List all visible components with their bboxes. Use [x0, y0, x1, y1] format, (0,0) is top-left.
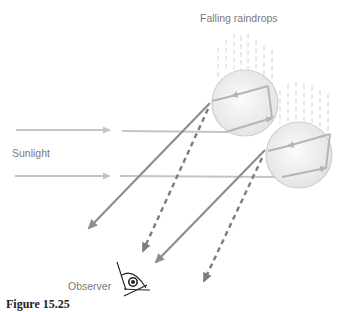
sunlight-ray-2b: [120, 176, 282, 177]
diagram-title: Falling raindrops: [200, 12, 278, 24]
figure-caption: Figure 15.25: [6, 297, 70, 312]
observer-label: Observer: [68, 280, 111, 292]
sunlight-ray-1b: [122, 131, 226, 132]
solid-exit-ray-1: [89, 103, 210, 228]
sunlight-rays: [15, 130, 282, 177]
solid-exit-ray-2: [156, 150, 265, 262]
raindrop-lower: [266, 122, 332, 188]
raindrop-upper: [212, 70, 278, 136]
observer-eye-icon: [117, 262, 150, 296]
sunlight-label: Sunlight: [12, 147, 50, 159]
